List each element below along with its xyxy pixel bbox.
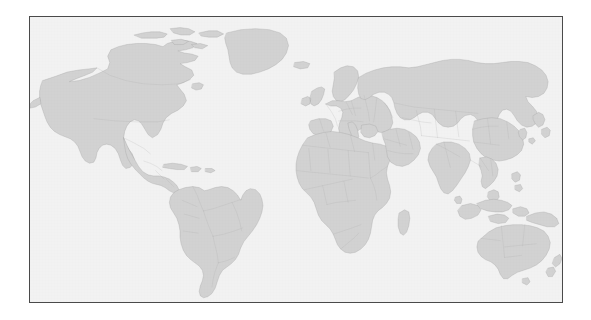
world-map-canvas (30, 17, 562, 302)
world-map-figure (29, 16, 563, 303)
